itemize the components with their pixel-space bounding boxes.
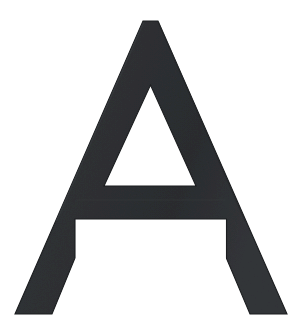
- image-canvas: A Uppercase sans-serif letter A rendered…: [0, 0, 301, 334]
- letter-a-glyph: [0, 0, 301, 334]
